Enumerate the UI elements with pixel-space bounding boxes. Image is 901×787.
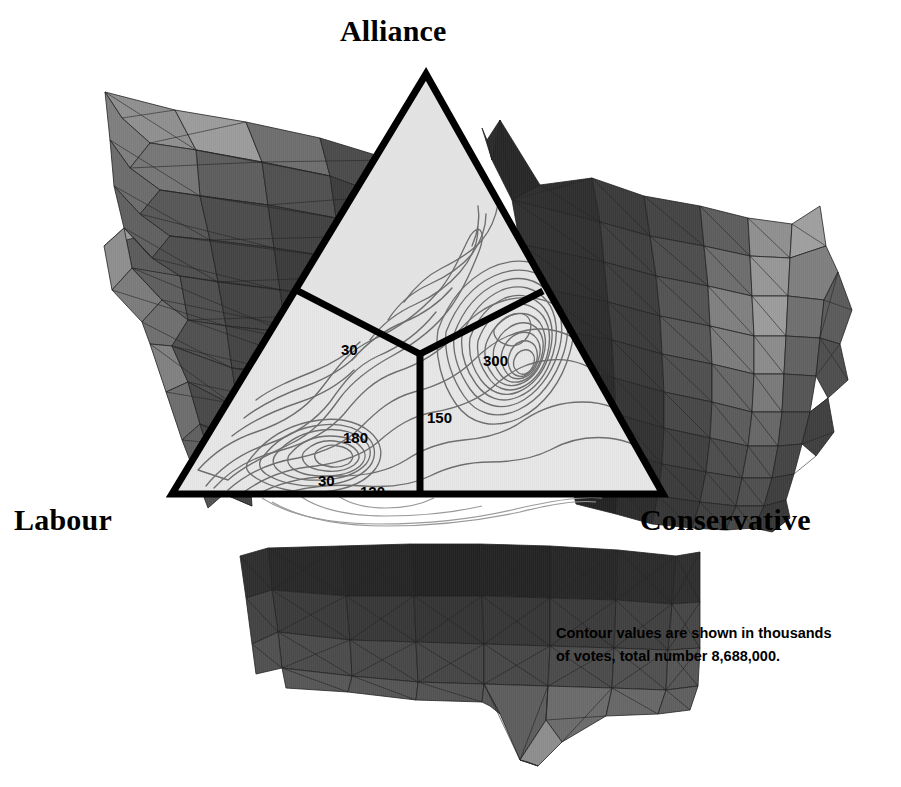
contour-label-300: 300 xyxy=(483,352,508,369)
caption: Contour values are shown in thousands of… xyxy=(556,622,886,669)
contour-label-30-upper: 30 xyxy=(341,341,358,358)
ternary-contour-figure: 30 300 150 180 30 120 Alliance Labour Co… xyxy=(0,0,901,787)
contour-label-150: 150 xyxy=(427,409,452,426)
vertex-label-labour: Labour xyxy=(14,503,112,537)
caption-line-1: Contour values are shown in thousands xyxy=(556,622,886,645)
caption-line-2: of votes, total number 8,688,000. xyxy=(556,645,886,668)
vertex-label-conservative: Conservative xyxy=(640,503,811,537)
contour-label-120: 120 xyxy=(360,483,385,500)
contour-label-30-lower: 30 xyxy=(318,472,335,489)
contour-label-180: 180 xyxy=(343,429,368,446)
vertex-label-alliance: Alliance xyxy=(340,14,447,48)
